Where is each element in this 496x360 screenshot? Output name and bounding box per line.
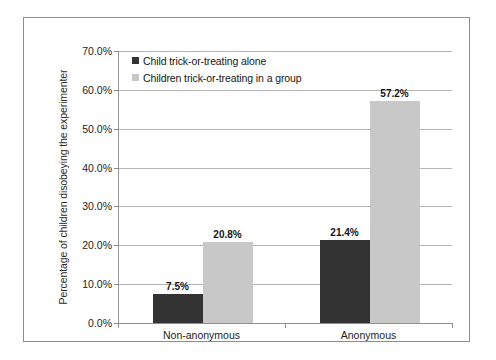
bar-1-1: 57.2% bbox=[370, 101, 420, 323]
x-tick-mark bbox=[452, 323, 453, 328]
y-tick-mark bbox=[114, 51, 119, 52]
plot-area: 7.5%20.8%21.4%57.2% Child trick-or-treat… bbox=[118, 51, 452, 323]
legend-item-1: Children trick-or-treating in a group bbox=[132, 70, 382, 85]
x-tick-mark bbox=[285, 323, 286, 328]
y-tick-label: 70.0% bbox=[70, 45, 112, 57]
chart-legend: Child trick-or-treating alone Children t… bbox=[132, 53, 382, 87]
legend-swatch-icon-1 bbox=[132, 74, 139, 81]
y-tick-label: 50.0% bbox=[70, 123, 112, 135]
bar-1-0: 21.4% bbox=[320, 240, 370, 323]
bar-value-label: 20.8% bbox=[213, 229, 241, 240]
legend-swatch-icon-0 bbox=[132, 57, 139, 64]
y-tick-mark bbox=[114, 129, 119, 130]
bar-0-0: 7.5% bbox=[153, 294, 203, 323]
y-tick-mark bbox=[114, 206, 119, 207]
y-tick-label: 30.0% bbox=[70, 200, 112, 212]
x-tick-label-0: Non-anonymous bbox=[163, 329, 240, 341]
bar-value-label: 21.4% bbox=[330, 227, 358, 238]
y-tick-label: 20.0% bbox=[70, 239, 112, 251]
x-tick-label-1: Anonymous bbox=[341, 329, 396, 341]
y-tick-label: 40.0% bbox=[70, 162, 112, 174]
y-tick-label: 0.0% bbox=[70, 317, 112, 329]
bar-0-1: 20.8% bbox=[203, 242, 253, 323]
y-tick-label: 10.0% bbox=[70, 278, 112, 290]
gridline bbox=[119, 51, 452, 52]
x-tick-mark bbox=[118, 323, 119, 328]
y-tick-mark bbox=[114, 168, 119, 169]
y-tick-mark bbox=[114, 245, 119, 246]
legend-item-0: Child trick-or-treating alone bbox=[132, 53, 382, 68]
legend-label-0: Child trick-or-treating alone bbox=[143, 55, 266, 67]
x-axis-tick-labels: Non-anonymousAnonymous bbox=[118, 329, 452, 347]
y-tick-mark bbox=[114, 284, 119, 285]
y-tick-label: 60.0% bbox=[70, 84, 112, 96]
y-axis-tick-labels: 0.0%10.0%20.0%30.0%40.0%50.0%60.0%70.0% bbox=[70, 51, 112, 323]
bar-value-label: 57.2% bbox=[380, 88, 408, 99]
y-tick-mark bbox=[114, 90, 119, 91]
bar-value-label: 7.5% bbox=[166, 281, 189, 292]
legend-label-1: Children trick-or-treating in a group bbox=[143, 72, 302, 84]
figure-frame: Percentage of children disobeying the ex… bbox=[23, 17, 470, 342]
